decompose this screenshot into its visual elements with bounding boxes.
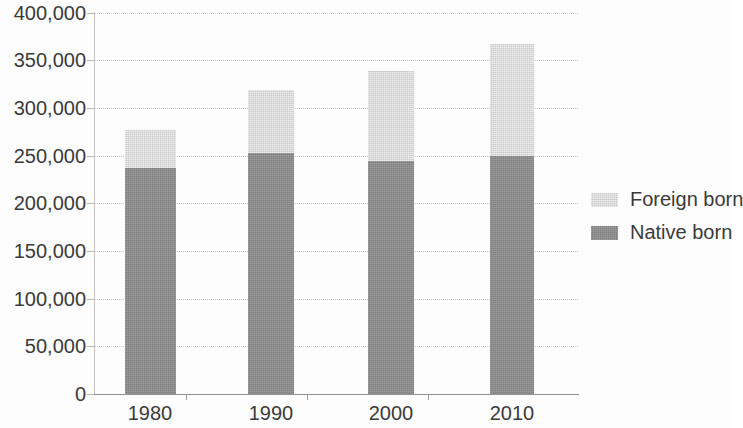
y-axis-labels: 400,000 350,000 300,000 250,000 200,000 … — [0, 0, 86, 428]
x-axis-line — [94, 394, 579, 395]
bar-segment-native-born-1990[interactable] — [248, 153, 294, 394]
x-axis-tick — [428, 394, 429, 400]
chart-legend: Foreign born Native born — [591, 183, 743, 249]
y-axis-label: 300,000 — [0, 97, 86, 120]
bar-segment-native-born-2010[interactable] — [490, 156, 534, 394]
legend-label-native-born: Native born — [630, 221, 732, 244]
x-axis-tick — [307, 394, 308, 400]
y-axis-label: 150,000 — [0, 240, 86, 263]
bar-stack-2000[interactable] — [368, 71, 414, 394]
legend-label-foreign-born: Foreign born — [630, 188, 743, 211]
x-axis-label-1990: 1990 — [249, 402, 294, 425]
foreign-born-swatch-icon — [591, 193, 618, 207]
y-axis-label: 350,000 — [0, 49, 86, 72]
y-axis-label: 400,000 — [0, 2, 86, 25]
gridline-400000 — [95, 13, 578, 14]
bar-stack-1990[interactable] — [248, 90, 294, 394]
x-axis-label-1980: 1980 — [128, 402, 173, 425]
x-axis-label-2000: 2000 — [369, 402, 414, 425]
legend-item-foreign-born[interactable]: Foreign born — [591, 183, 743, 216]
y-axis-label: 200,000 — [0, 192, 86, 215]
y-axis-label: 50,000 — [0, 335, 86, 358]
bar-stack-2010[interactable] — [490, 44, 534, 394]
plot-area — [95, 13, 578, 394]
y-axis-label: 0 — [0, 383, 86, 406]
bar-segment-foreign-born-1990[interactable] — [248, 90, 294, 153]
bar-segment-foreign-born-1980[interactable] — [125, 130, 176, 168]
bar-segment-native-born-2000[interactable] — [368, 161, 414, 394]
bar-segment-native-born-1980[interactable] — [125, 168, 176, 394]
legend-item-native-born[interactable]: Native born — [591, 216, 743, 249]
x-axis-tick — [186, 394, 187, 400]
bar-stack-1980[interactable] — [125, 130, 176, 394]
bar-segment-foreign-born-2010[interactable] — [490, 44, 534, 156]
native-born-swatch-icon — [591, 226, 618, 240]
x-axis-label-2010: 2010 — [490, 402, 535, 425]
bar-segment-foreign-born-2000[interactable] — [368, 71, 414, 161]
y-axis-label: 250,000 — [0, 145, 86, 168]
y-axis-label: 100,000 — [0, 288, 86, 311]
